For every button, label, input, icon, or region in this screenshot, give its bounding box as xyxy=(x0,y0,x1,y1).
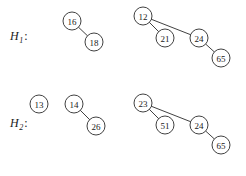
node-key-label: 13 xyxy=(35,100,45,110)
heap-node: 24 xyxy=(190,116,208,134)
heap-node: 65 xyxy=(212,136,230,154)
binomial-heap-figure: 16181221246513142623512465H1:H2: xyxy=(0,0,246,176)
heap-label-colon: : xyxy=(23,116,27,130)
heap-label-letter: H xyxy=(10,29,19,43)
node-group-h2: 13142623512465 xyxy=(30,94,230,154)
heap-label-colon: : xyxy=(23,29,27,43)
node-key-label: 24 xyxy=(195,34,205,44)
heap-edge xyxy=(206,44,215,52)
heap-canvas: 16181221246513142623512465 xyxy=(0,0,246,176)
node-key-label: 21 xyxy=(161,34,170,44)
node-key-label: 24 xyxy=(195,121,205,131)
heap-node: 24 xyxy=(190,29,208,47)
heap-node: 26 xyxy=(87,117,105,135)
node-group-h1: 161812212465 xyxy=(63,7,230,67)
heap-edge xyxy=(149,109,158,118)
heap-node: 16 xyxy=(63,12,81,30)
node-key-label: 23 xyxy=(139,99,149,109)
node-key-label: 26 xyxy=(92,122,102,132)
heap-node: 14 xyxy=(65,95,83,113)
heap-node: 65 xyxy=(212,49,230,67)
heap-label-letter: H xyxy=(10,116,19,130)
node-key-label: 18 xyxy=(90,38,100,48)
heap-node: 21 xyxy=(156,29,174,47)
heap-edge xyxy=(149,22,158,31)
node-key-label: 14 xyxy=(70,100,80,110)
node-key-label: 12 xyxy=(139,12,148,22)
heap-edge xyxy=(206,131,215,139)
heap-edge xyxy=(80,110,89,119)
heap-node: 18 xyxy=(85,33,103,51)
heap-node: 13 xyxy=(30,95,48,113)
node-key-label: 65 xyxy=(217,141,227,151)
heap-node: 51 xyxy=(156,116,174,134)
heap-node: 12 xyxy=(134,7,152,25)
node-key-label: 51 xyxy=(161,121,170,131)
heap-label-h2: H2: xyxy=(10,117,28,132)
heap-node: 23 xyxy=(134,94,152,112)
node-key-label: 16 xyxy=(68,17,78,27)
heap-edge xyxy=(79,27,88,36)
heap-label-h1: H1: xyxy=(10,30,28,45)
node-key-label: 65 xyxy=(217,54,227,64)
